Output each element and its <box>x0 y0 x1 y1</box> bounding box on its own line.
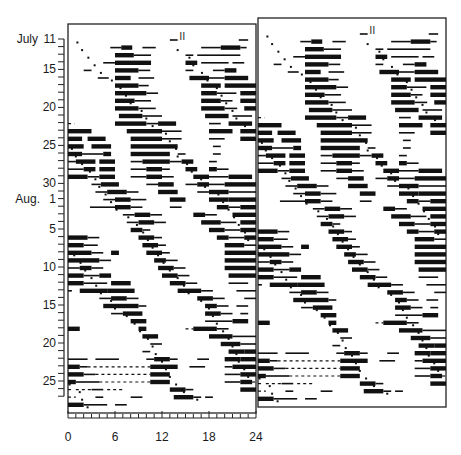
activity-bout-thick <box>293 146 301 150</box>
onset-marker <box>177 156 179 158</box>
activity-bout-thin <box>84 70 92 72</box>
onset-marker <box>142 232 144 234</box>
activity-bout-thin <box>68 168 84 170</box>
activity-bout-thick <box>258 275 274 279</box>
activity-bout-thin <box>336 352 344 354</box>
activity-bout-thin <box>229 282 249 284</box>
onset-marker <box>80 262 82 264</box>
activity-bout-thick <box>348 184 368 188</box>
activity-bout-thin <box>336 178 348 180</box>
activity-bout-thin <box>88 176 100 178</box>
onset-marker <box>89 171 91 173</box>
onset-marker <box>331 104 333 106</box>
onset-marker <box>152 346 154 348</box>
activity-bout-thick <box>139 235 155 239</box>
activity-bout-thin <box>258 284 262 286</box>
onset-marker <box>247 376 249 378</box>
actogram-chart: 11July152025301Aug.510152025 II II 06121… <box>0 0 461 455</box>
activity-bout-thick <box>430 199 446 203</box>
activity-bout-thick <box>329 214 345 218</box>
activity-bout-thick <box>258 359 270 363</box>
activity-bout-thin <box>336 86 348 88</box>
onset-marker <box>116 209 118 211</box>
onset-marker <box>355 127 357 129</box>
activity-bout-thin <box>282 246 294 248</box>
activity-bout-thick <box>101 182 119 186</box>
activity-bout-thick <box>399 123 423 127</box>
x-tick-label: 18 <box>202 430 216 444</box>
activity-bout-thin <box>329 102 346 104</box>
activity-bout-thick <box>430 131 446 135</box>
onset-marker <box>95 285 97 287</box>
onset-marker <box>386 393 388 395</box>
activity-bout-thin <box>139 85 149 87</box>
activity-bout-thin <box>321 200 333 202</box>
activity-bout-thin <box>415 375 431 377</box>
activity-bout-thick <box>225 182 256 186</box>
activity-bout-thin <box>344 216 356 218</box>
activity-bout-thin <box>395 314 422 316</box>
activity-bout-thick <box>221 342 241 346</box>
y-tick-label: 25 <box>43 374 57 388</box>
activity-bout-thick <box>205 304 217 308</box>
activity-bout-thick <box>399 222 415 226</box>
activity-bout-thin <box>99 260 111 262</box>
activity-bout-thick <box>225 83 256 87</box>
activity-bout-thick <box>240 91 256 95</box>
activity-bout-thick <box>240 387 256 391</box>
activity-bout-thin <box>325 94 341 96</box>
activity-bout-thick <box>297 283 324 287</box>
onset-marker <box>221 95 223 97</box>
activity-bout-thick <box>305 77 329 81</box>
activity-bout-thin <box>92 389 104 391</box>
activity-bout-thin <box>274 238 288 240</box>
onset-marker <box>169 376 171 378</box>
activity-bout-thin <box>90 206 115 208</box>
activity-bout-thin <box>88 237 100 239</box>
activity-bout-thin <box>221 313 233 315</box>
onset-marker <box>422 104 424 106</box>
activity-bout-thin <box>329 299 337 301</box>
activity-bout-thick <box>383 321 407 325</box>
activity-bout-thin <box>146 184 158 186</box>
onset-marker <box>277 400 279 402</box>
onset-marker <box>76 42 78 44</box>
activity-bout-thick <box>430 222 446 226</box>
y-tick-label: 15 <box>43 298 57 312</box>
onset-marker <box>216 87 218 89</box>
onset-marker <box>81 49 83 51</box>
activity-bout-thick <box>217 235 229 239</box>
activity-bout-thin <box>356 254 368 256</box>
onset-marker <box>238 224 240 226</box>
activity-bout-thin <box>332 345 340 347</box>
x-tick-label: 6 <box>112 430 119 444</box>
activity-bout-thick <box>225 251 256 255</box>
activity-bout-thick <box>348 176 364 180</box>
activity-bout-thick <box>131 137 162 141</box>
activity-bout-thin <box>399 117 411 119</box>
activity-bout-thin <box>92 252 104 254</box>
onset-marker <box>329 324 331 326</box>
activity-bout-thick <box>430 85 446 89</box>
onset-marker <box>290 66 292 68</box>
activity-bout-thick <box>146 175 162 179</box>
activity-bout-thick <box>336 169 352 173</box>
onset-marker <box>98 186 100 188</box>
activity-bout-thick <box>348 115 366 119</box>
onset-marker <box>342 241 344 243</box>
onset-marker <box>232 346 234 348</box>
activity-bout-thick <box>289 161 305 165</box>
activity-bout-thin <box>324 48 341 50</box>
activity-bout-thick <box>68 403 84 407</box>
onset-marker <box>342 340 344 342</box>
activity-bout-thick <box>119 114 142 118</box>
y-axis: 11July152025301Aug.510152025 <box>15 32 64 396</box>
activity-bout-thick <box>201 106 225 110</box>
activity-bout-thick <box>225 76 249 80</box>
activity-bout-thin <box>209 176 229 178</box>
onset-marker <box>91 277 93 279</box>
activity-bout-thick <box>131 152 170 156</box>
activity-bout-thick <box>99 167 115 171</box>
activity-bout-thick <box>395 108 419 112</box>
activity-bout-thin <box>391 284 403 286</box>
